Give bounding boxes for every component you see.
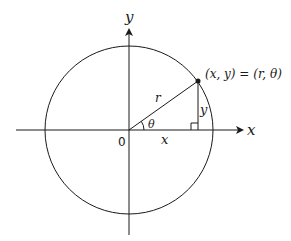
x-leg-label: x	[161, 132, 169, 147]
angle-label: θ	[148, 118, 155, 131]
radius-label: r	[155, 91, 162, 105]
origin-label: 0	[118, 135, 126, 149]
y-leg-label: y	[199, 102, 208, 117]
point-label: (x, y) = (r, θ)	[205, 67, 282, 81]
point-marker	[196, 79, 201, 84]
angle-arc	[141, 121, 144, 130]
polar-coordinates-diagram: y x 0 r θ x y (x, y) = (r, θ)	[0, 0, 291, 241]
x-axis-label: x	[247, 121, 256, 139]
radius-line	[129, 81, 198, 130]
y-axis-label: y	[124, 8, 134, 26]
right-angle-marker	[191, 123, 198, 130]
